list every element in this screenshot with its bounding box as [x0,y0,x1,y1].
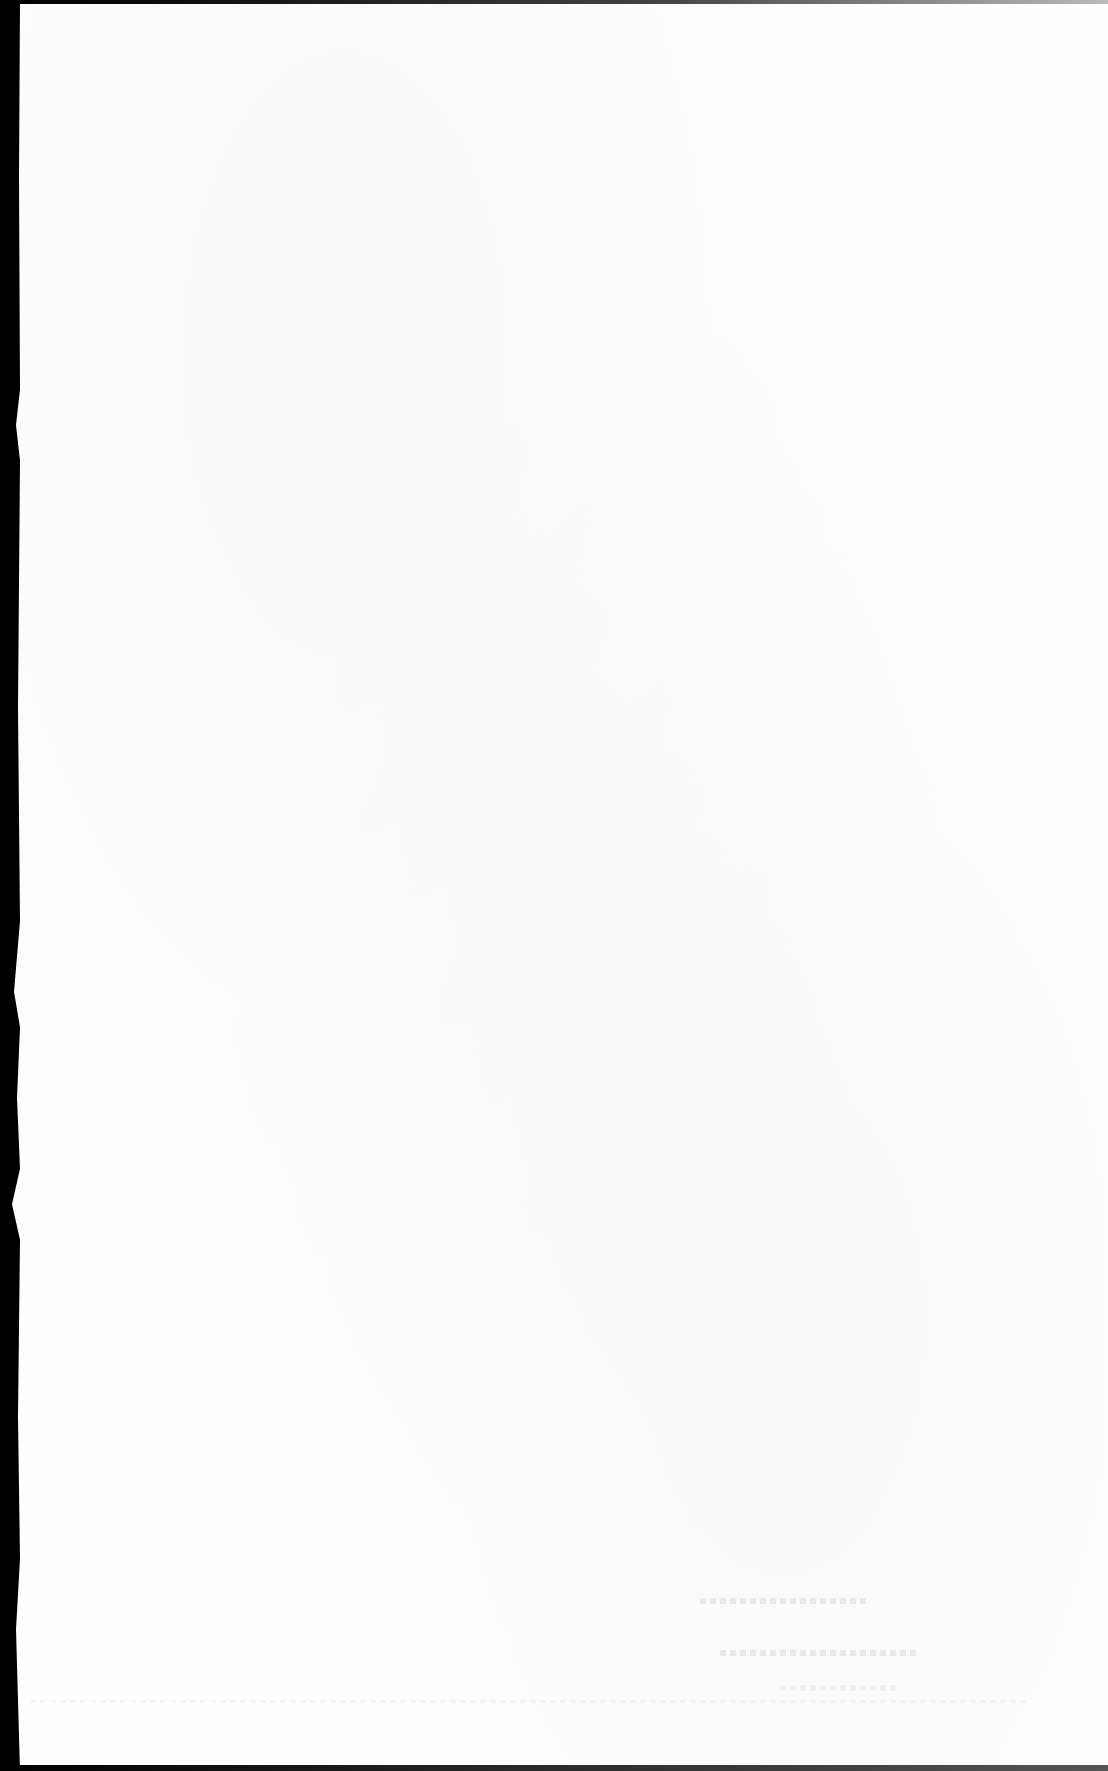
bleed-through-mark [700,1598,870,1604]
bleed-through-mark [720,1650,920,1656]
bleed-through-mark [780,1685,900,1691]
scanner-left-edge [0,0,20,1771]
bleed-through-mark [30,1700,1030,1703]
blank-paper [18,4,1108,1765]
scanned-page [0,0,1108,1771]
scanner-top-edge [0,0,1108,4]
scanner-bottom-edge [0,1765,1108,1771]
